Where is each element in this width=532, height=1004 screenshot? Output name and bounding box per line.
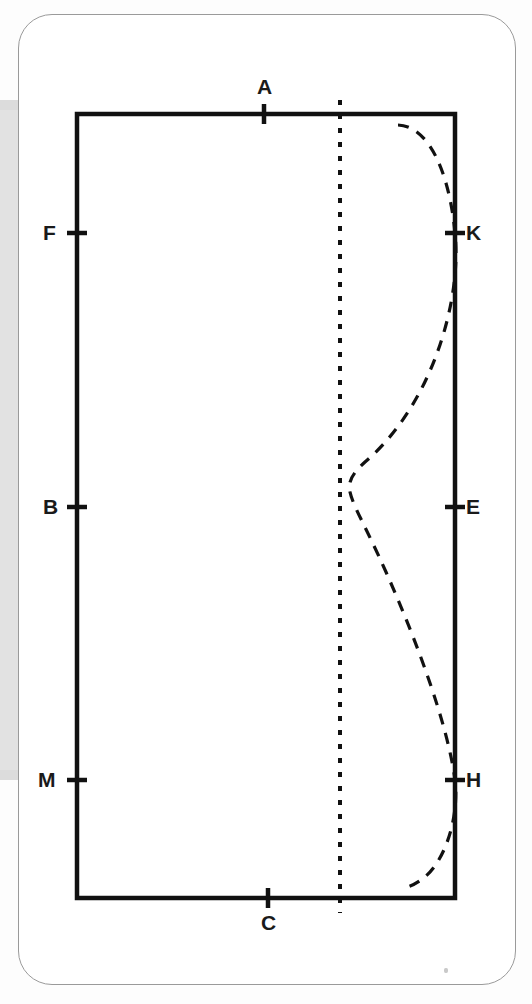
tick-m-label: M <box>38 769 56 790</box>
scan-speck <box>444 968 448 973</box>
tick-a-label: A <box>257 76 272 97</box>
tick-k-label: K <box>466 222 481 243</box>
tick-b-label: B <box>43 496 58 517</box>
dashed-wave-curve <box>350 125 456 888</box>
geometry-figure: ACFBMKEH <box>0 0 532 1004</box>
rectangle-outline <box>77 114 455 898</box>
tick-h-label: H <box>466 769 481 790</box>
figure-svg <box>0 0 532 1004</box>
tick-c-label: C <box>261 912 276 933</box>
tick-e-label: E <box>466 496 480 517</box>
tick-f-label: F <box>43 222 56 243</box>
